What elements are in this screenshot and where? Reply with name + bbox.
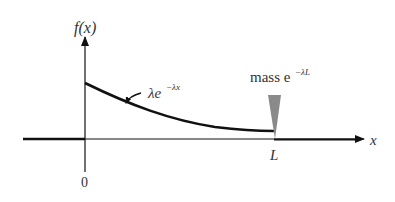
exponential-density-diagram: f(x) x 0 L λe −λx mass e −λL <box>0 0 395 202</box>
mass-label: mass e −λL <box>250 67 310 85</box>
point-L-label: L <box>269 147 278 163</box>
curve-label-base: λe <box>147 85 161 101</box>
curve-label-exponent: −λx <box>166 82 180 92</box>
mass-label-base: mass e <box>250 69 291 85</box>
y-axis-label: f(x) <box>74 19 96 37</box>
origin-label: 0 <box>81 175 88 190</box>
x-axis-label: x <box>369 132 377 148</box>
point-mass-spike <box>268 95 281 139</box>
curve-label: λe −λx <box>147 82 180 101</box>
mass-label-exponent: −λL <box>295 67 310 77</box>
